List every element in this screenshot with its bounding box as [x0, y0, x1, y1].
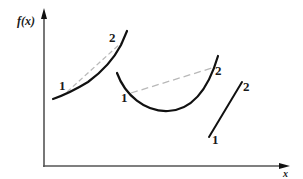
curve-a-point1-label: 1: [59, 78, 66, 93]
curve-linear: 1 2: [209, 79, 250, 147]
curve-b-point1-label: 1: [121, 90, 128, 105]
y-axis-arrow-icon: [41, 8, 47, 19]
chord-b: [131, 68, 212, 93]
x-axis-label: x: [282, 168, 288, 179]
line-c-point2-label: 2: [243, 79, 250, 94]
convexity-diagram: f(x) x 1 2 1 2 1 2: [0, 0, 303, 179]
curve-convex-increasing: 1 2: [53, 30, 127, 99]
curve-b-point2-label: 2: [215, 63, 222, 78]
y-axis-label: f(x): [17, 14, 35, 28]
line-c-point1-label: 1: [212, 132, 219, 147]
curve-convex-u: 1 2: [117, 56, 222, 111]
line-c: [209, 82, 242, 137]
curve-a-point2-label: 2: [109, 30, 116, 45]
chord-a: [67, 43, 121, 92]
curve-b-path: [117, 56, 218, 111]
